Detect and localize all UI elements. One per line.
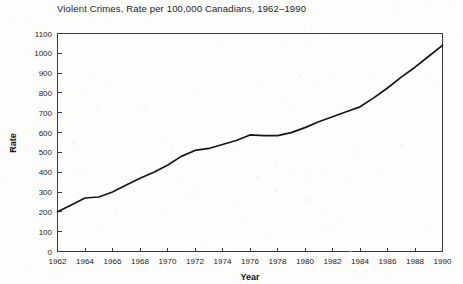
- x-tick-label: 1974: [214, 257, 232, 266]
- y-tick-label: 0: [48, 248, 53, 257]
- x-tick-label: 1976: [241, 257, 259, 266]
- y-tick-label: 1100: [35, 30, 53, 39]
- y-tick-label: 800: [39, 89, 53, 98]
- data-series-line: [58, 45, 443, 211]
- x-tick-label: 1984: [351, 257, 369, 266]
- x-tick-label: 1968: [131, 257, 149, 266]
- x-tick-label: 1966: [104, 257, 122, 266]
- y-axis-tick-marks: [58, 34, 62, 252]
- x-tick-label: 1986: [379, 257, 397, 266]
- x-tick-label: 1982: [324, 257, 342, 266]
- y-tick-label: 300: [39, 188, 53, 197]
- plot-frame-border: [58, 34, 443, 252]
- y-tick-label: 500: [39, 148, 53, 157]
- y-tick-label: 400: [39, 168, 53, 177]
- y-tick-label: 600: [39, 129, 53, 138]
- y-axis-title: Rate: [8, 133, 18, 153]
- x-tick-label: 1988: [406, 257, 424, 266]
- x-tick-label: 1964: [76, 257, 94, 266]
- y-axis-tick-labels: 010020030040050060070080090010001100: [34, 30, 52, 257]
- x-axis-title: Year: [240, 272, 260, 282]
- x-tick-label: 1980: [296, 257, 314, 266]
- chart-figure: Violent Crimes, Rate per 100,000 Canadia…: [0, 0, 463, 284]
- x-tick-label: 1978: [269, 257, 287, 266]
- x-tick-label: 1972: [186, 257, 204, 266]
- y-tick-label: 200: [39, 208, 53, 217]
- x-axis-tick-marks: [58, 248, 443, 252]
- chart-plot-area: 010020030040050060070080090010001100 196…: [0, 0, 463, 284]
- x-tick-label: 1962: [49, 257, 67, 266]
- x-axis-tick-labels: 1962196419661968197019721974197619781980…: [49, 257, 452, 266]
- x-tick-label: 1970: [159, 257, 177, 266]
- y-tick-label: 700: [39, 109, 53, 118]
- y-tick-label: 900: [39, 69, 53, 78]
- y-tick-label: 100: [39, 228, 53, 237]
- x-tick-label: 1990: [434, 257, 452, 266]
- y-tick-label: 1000: [34, 49, 52, 58]
